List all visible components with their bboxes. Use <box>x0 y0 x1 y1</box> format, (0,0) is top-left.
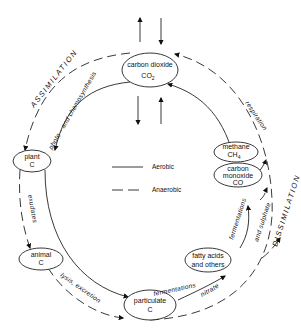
legend-anaerobic: Anaerobic <box>152 186 182 193</box>
svg-text:carbon: carbon <box>227 165 249 172</box>
plant-to-particulate-arrow <box>45 170 128 297</box>
svg-text:plant: plant <box>24 153 39 161</box>
legend-aerobic: Aerobic <box>152 163 175 170</box>
svg-text:C: C <box>29 161 34 168</box>
co-to-dissimilation <box>260 188 267 200</box>
svg-text:C: C <box>147 306 152 313</box>
svg-text:carbon dioxide: carbon dioxide <box>127 61 173 68</box>
label-dissimilation: DISSIMILATION <box>270 173 301 247</box>
svg-text:C: C <box>38 259 43 266</box>
svg-text:and others: and others <box>191 261 225 268</box>
label-exudates: exudates <box>27 194 39 224</box>
legend: Aerobic Anaerobic <box>112 163 182 193</box>
node-plant: plant C <box>13 150 51 172</box>
exudates-arrow <box>19 170 30 248</box>
node-carbon-monoxide: carbon monoxide CO <box>214 163 262 187</box>
svg-text:CO: CO <box>233 179 244 186</box>
node-carbon-dioxide: carbon dioxide CO2 <box>122 53 178 87</box>
svg-text:monoxide: monoxide <box>223 172 253 179</box>
svg-text:methane: methane <box>222 143 249 150</box>
carbon-cycle-diagram: carbon dioxide CO2 plant C animal C part… <box>0 0 301 333</box>
label-fermentations-upper: fermentations <box>227 197 247 241</box>
svg-text:particulate: particulate <box>134 297 166 305</box>
label-assimilation: ASSIMILATION <box>28 48 80 110</box>
node-particulate: particulate C <box>124 290 176 320</box>
svg-text:fatty acids: fatty acids <box>192 252 224 260</box>
label-lysis: lysis, excretion <box>59 271 103 305</box>
svg-text:animal: animal <box>31 251 52 258</box>
node-fatty-acids: fatty acids and others <box>185 248 231 272</box>
node-methane: methane CH4 <box>214 142 258 162</box>
node-animal: animal C <box>19 248 63 270</box>
label-sulphate: and sulphate <box>252 201 272 242</box>
